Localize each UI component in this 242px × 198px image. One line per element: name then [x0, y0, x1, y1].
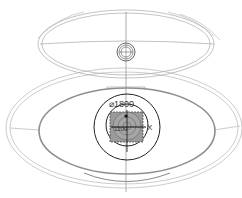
top-arcs [38, 12, 220, 40]
axis-x-label: X [147, 123, 153, 132]
center-value-label: 1200 [114, 126, 128, 132]
technical-drawing: ⌀1800 1200 X [0, 0, 242, 198]
diameter-label: ⌀1800 [109, 99, 134, 109]
